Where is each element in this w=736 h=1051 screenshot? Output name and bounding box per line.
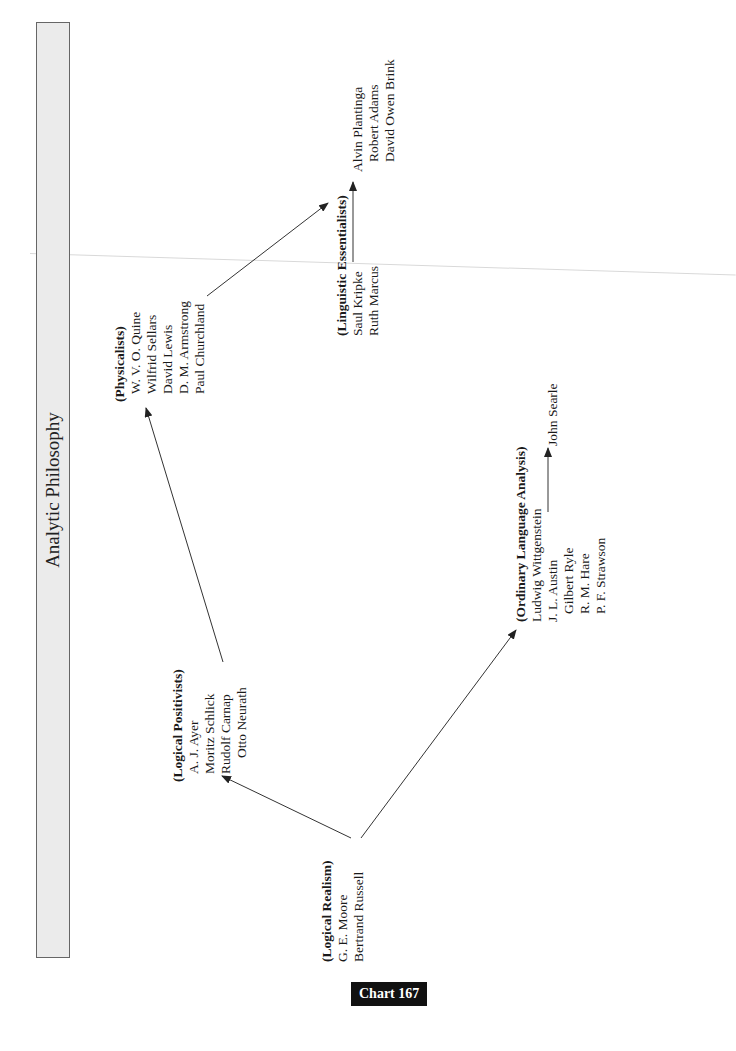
group-heading: (Linguistic Essentialists) — [334, 195, 350, 336]
arrow-realism-to-ordinary-language — [361, 630, 516, 838]
philosopher-name: Ruth Marcus — [366, 195, 382, 336]
group-physicalists: (Physicalists) W. V. O. Quine Wilfrid Se… — [112, 301, 208, 402]
group-ordinary-language-followers: John Searle — [545, 383, 561, 446]
philosopher-name: J. L. Austin — [545, 446, 561, 622]
philosopher-name: Alvin Plantinga — [350, 59, 366, 172]
group-essentialist-followers: Alvin Plantinga Robert Adams David Owen … — [350, 59, 398, 172]
philosopher-name: Wilfrid Sellars — [144, 301, 160, 402]
philosopher-name: Otto Neurath — [234, 669, 250, 782]
philosopher-name: Gilbert Ryle — [561, 446, 577, 622]
group-heading: (Logical Realism) — [319, 860, 335, 962]
group-logical-positivists: (Logical Positivists) A. J. Ayer Moritz … — [170, 669, 250, 782]
philosopher-name: Moritz Schlick — [202, 669, 218, 782]
group-heading: (Physicalists) — [112, 301, 128, 402]
arrow-realism-to-positivists — [222, 776, 351, 838]
group-ordinary-language: (Ordinary Language Analysis) Ludwig Witt… — [513, 446, 609, 622]
group-logical-realism: (Logical Realism) G. E. Moore Bertrand R… — [319, 860, 367, 962]
chart-number-label: Chart 167 — [351, 982, 427, 1006]
arrow-positivists-to-physicalists — [146, 408, 223, 662]
philosopher-name: David Lewis — [160, 301, 176, 402]
philosopher-name: R. M. Hare — [577, 446, 593, 622]
philosopher-name: A. J. Ayer — [186, 669, 202, 782]
philosopher-name: Paul Churchland — [192, 301, 208, 402]
philosopher-name: David Owen Brink — [382, 59, 398, 172]
philosopher-name: John Searle — [545, 383, 561, 446]
group-linguistic-essentialists: (Linguistic Essentialists) Saul Kripke R… — [334, 195, 382, 336]
arrow-physicalists-to-essentialists — [207, 203, 328, 296]
philosopher-name: Ludwig Wittgenstein — [529, 446, 545, 622]
philosopher-name: G. E. Moore — [335, 860, 351, 962]
philosopher-name: D. M. Armstrong — [176, 301, 192, 402]
philosopher-name: Rudolf Carnap — [218, 669, 234, 782]
philosopher-name: P. F. Strawson — [593, 446, 609, 622]
philosopher-name: Saul Kripke — [350, 195, 366, 336]
philosopher-name: W. V. O. Quine — [128, 301, 144, 402]
philosopher-name: Bertrand Russell — [351, 860, 367, 962]
philosopher-name: Robert Adams — [366, 59, 382, 172]
group-heading: (Ordinary Language Analysis) — [513, 446, 529, 622]
group-heading: (Logical Positivists) — [170, 669, 186, 782]
